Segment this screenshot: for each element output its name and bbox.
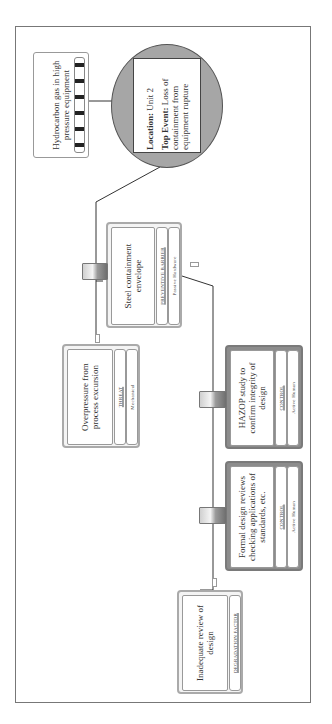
threat-category: THREAT [118,387,123,407]
threat-link-icon[interactable] [95,334,100,343]
control-pipe-icon [199,391,227,408]
control-category: CONTROL [279,504,284,529]
control-type: Active Human [291,382,296,414]
threat-type: Mechanical [130,384,135,409]
degradation-factor-box[interactable]: Inadequate review of design DEGRADATION … [177,590,243,694]
preventive-barrier-pipe-icon [82,263,108,280]
location-line: Location: Unit 2 [145,62,155,150]
preventive-barrier-type: Passive Hardware [172,256,177,295]
top-event-circle[interactable]: Location: Unit 2 Top Event: Loss of cont… [111,44,223,168]
control-label: HAZOP study to confirm integrity of desi… [237,355,267,441]
control-pipe-icon [199,507,227,524]
degradation-factor-category: DEGRADATION FACTOR [233,613,238,673]
control-box[interactable]: HAZOP study to confirm integrity of desi… [225,345,303,449]
degradation-factor-label: Inadequate review of design [195,600,215,686]
top-event-label: Top Event: [160,107,170,149]
preventive-barrier-box[interactable]: Steel containment envelope PREVENTIVE BA… [106,222,182,328]
degradation-factor-link-icon[interactable] [212,578,217,587]
location-label: Location: [145,113,155,150]
top-event-line: Top Event: Loss of containment from equi… [160,62,190,150]
preventive-barrier-label: Steel containment envelope [123,232,143,320]
control-path-connector [182,276,213,590]
threat-label: Overpressure from process excursion [80,354,100,440]
hazard-box[interactable]: Hydrocarbon gas in high pressure equipme… [33,52,89,158]
hazard-stripe-icon [74,57,85,153]
hazard-label: Hydrocarbon gas in high pressure equipme… [51,57,71,153]
control-category: CONTROL [279,385,284,410]
control-type: Active Human [291,501,296,533]
location-value: Unit 2 [145,87,155,110]
control-label: Formal design reviews checking applicati… [237,471,267,563]
control-box[interactable]: Formal design reviews checking applicati… [225,461,303,571]
preventive-barrier-category: PREVENTIVE BARRIER [160,247,165,304]
threat-box[interactable]: Overpressure from process excursion THRE… [62,344,140,448]
preventive-barrier-link-icon[interactable] [190,262,199,267]
top-event-box: Location: Unit 2 Top Event: Loss of cont… [133,58,201,153]
